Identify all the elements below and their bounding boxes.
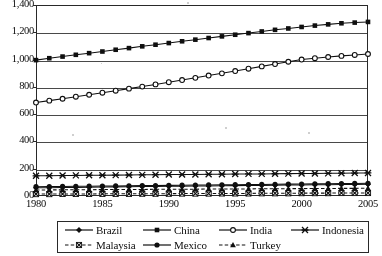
data-point-malaysia <box>73 191 78 196</box>
series-layer <box>36 5 368 196</box>
data-point-indonesia <box>46 173 53 179</box>
data-point-china <box>74 52 79 57</box>
data-point-india <box>259 64 264 69</box>
data-point-indonesia <box>86 172 93 178</box>
data-point-india <box>73 94 78 99</box>
legend-item-mexico[interactable]: Mexico <box>142 237 207 253</box>
data-point-india <box>286 59 291 64</box>
data-point-indonesia <box>72 172 79 178</box>
data-point-china <box>87 51 92 56</box>
legend-label: India <box>248 224 272 236</box>
data-point-india <box>60 96 65 101</box>
x-axis-tick-label: 1980 <box>14 198 58 209</box>
data-point-turkey <box>285 186 291 191</box>
legend-item-indonesia[interactable]: Indonesia <box>290 222 364 238</box>
legend-symbol-star <box>290 223 320 237</box>
data-point-india <box>326 55 331 60</box>
legend-symbol-circle-open <box>218 223 248 237</box>
data-point-china <box>366 20 371 25</box>
data-point-china <box>339 21 344 26</box>
data-point-malaysia <box>233 191 238 196</box>
data-point-china <box>47 56 52 61</box>
series-line-malaysia <box>36 193 368 194</box>
legend-item-malaysia[interactable]: Malaysia <box>64 237 136 253</box>
y-axis-tick-label: 400 <box>0 134 34 145</box>
data-point-india <box>140 84 145 89</box>
x-axis-tick-label: 2000 <box>280 198 324 209</box>
square-icon <box>142 223 172 237</box>
legend-marker <box>76 227 82 233</box>
data-point-malaysia <box>87 191 92 196</box>
data-point-india <box>193 75 198 80</box>
data-point-china <box>140 44 145 49</box>
y-axis-tick-label: 800 <box>0 80 34 91</box>
legend-item-india[interactable]: India <box>218 222 272 238</box>
data-point-china <box>206 36 211 41</box>
data-point-indonesia <box>219 171 226 177</box>
data-point-indonesia <box>33 173 40 179</box>
x-axis-tick-label: 1990 <box>147 198 191 209</box>
data-point-india <box>47 98 52 103</box>
data-point-china <box>313 23 318 28</box>
data-point-indonesia <box>232 171 239 177</box>
data-point-india <box>87 92 92 97</box>
scan-speck <box>225 127 227 129</box>
data-point-malaysia <box>246 191 251 196</box>
legend-item-china[interactable]: China <box>142 222 200 238</box>
data-point-mexico <box>352 181 357 186</box>
circle-open-icon <box>218 223 248 237</box>
chart-legend: BrazilChinaIndiaIndonesia MalaysiaMexico… <box>57 221 369 253</box>
data-point-indonesia <box>99 172 106 178</box>
legend-label: Malaysia <box>94 239 136 251</box>
data-point-india <box>180 78 185 83</box>
data-point-malaysia <box>365 190 370 195</box>
data-point-indonesia <box>152 172 159 178</box>
data-point-malaysia <box>339 190 344 195</box>
data-point-indonesia <box>179 172 186 178</box>
legend-label: Brazil <box>94 224 122 236</box>
legend-label: Indonesia <box>320 224 364 236</box>
data-point-indonesia <box>192 171 199 177</box>
legend-marker <box>302 227 309 233</box>
data-point-indonesia <box>126 172 133 178</box>
data-point-indonesia <box>258 171 265 177</box>
data-point-india <box>233 69 238 74</box>
data-point-malaysia <box>219 191 224 196</box>
data-point-china <box>233 32 238 37</box>
data-point-indonesia <box>311 170 318 176</box>
x-axis-tick-label: 2005 <box>346 198 382 209</box>
triangle-icon <box>218 238 248 252</box>
legend-symbol-square <box>142 223 172 237</box>
diamond-icon <box>64 223 94 237</box>
data-point-china <box>299 25 304 30</box>
data-point-india <box>113 88 118 93</box>
legend-marker <box>76 242 81 247</box>
legend-label: Turkey <box>248 239 281 251</box>
data-point-turkey <box>365 185 371 190</box>
data-point-turkey <box>325 185 331 190</box>
data-point-china <box>326 22 331 27</box>
data-point-china <box>273 28 278 33</box>
legend-item-brazil[interactable]: Brazil <box>64 222 122 238</box>
data-point-malaysia <box>166 191 171 196</box>
star-icon <box>290 223 320 237</box>
data-point-china <box>153 42 158 47</box>
data-point-india <box>339 53 344 58</box>
data-point-china <box>127 46 132 51</box>
legend-symbol-circle-filled <box>142 238 172 252</box>
data-point-india <box>220 71 225 76</box>
data-point-malaysia <box>312 191 317 196</box>
data-point-china <box>180 39 185 44</box>
data-point-china <box>259 29 264 34</box>
legend-symbol-triangle <box>218 238 248 252</box>
data-point-india <box>299 57 304 62</box>
y-axis-tick-label: 1,200 <box>0 25 34 36</box>
circle-filled-icon <box>142 238 172 252</box>
data-point-malaysia <box>326 191 331 196</box>
legend-row: MalaysiaMexicoTurkey <box>58 237 368 253</box>
legend-item-turkey[interactable]: Turkey <box>218 237 281 253</box>
data-point-malaysia <box>113 191 118 196</box>
data-point-indonesia <box>139 172 146 178</box>
data-point-malaysia <box>259 191 264 196</box>
data-point-malaysia <box>140 191 145 196</box>
